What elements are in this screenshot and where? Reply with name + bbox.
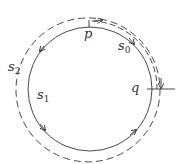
- label-q: q: [131, 81, 139, 94]
- loop-path-diagram: p s0 s2 s1 q: [0, 0, 183, 164]
- label-s0: s0: [118, 39, 130, 55]
- label-s1: s1: [37, 88, 49, 104]
- arrow-icon: [94, 20, 102, 21]
- label-s2: s2: [8, 60, 20, 76]
- diagram-canvas: [0, 0, 183, 164]
- label-p: p: [84, 27, 92, 40]
